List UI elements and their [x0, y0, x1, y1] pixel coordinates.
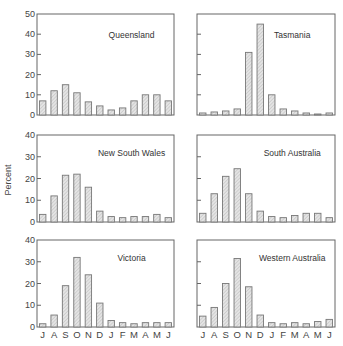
bar-queensland-9	[142, 95, 148, 115]
bar-victoria-0	[40, 324, 46, 327]
bar-new-south-wales-6	[108, 217, 114, 222]
bar-tasmania-7	[280, 109, 286, 115]
bar-new-south-wales-1	[51, 196, 57, 222]
bar-western-australia-0	[200, 316, 206, 327]
bar-tasmania-5	[257, 24, 263, 115]
bar-new-south-wales-7	[119, 218, 125, 222]
bar-tasmania-6	[269, 95, 275, 115]
bar-victoria-2	[62, 286, 68, 327]
bar-south-australia-9	[303, 213, 309, 222]
bar-south-australia-0	[200, 213, 206, 222]
bar-south-australia-11	[326, 218, 332, 222]
bar-south-australia-5	[257, 211, 263, 222]
y-tick-label: 30	[25, 257, 35, 267]
bar-queensland-4	[85, 102, 91, 115]
bar-tasmania-1	[211, 112, 217, 115]
bar-south-australia-6	[269, 217, 275, 222]
x-tick-label: J	[327, 329, 332, 340]
x-tick-label: A	[211, 329, 218, 340]
x-tick-label: S	[223, 329, 229, 340]
bar-south-australia-10	[315, 213, 321, 222]
bar-western-australia-9	[303, 324, 309, 327]
bar-western-australia-8	[292, 323, 298, 327]
y-tick-label: 40	[25, 130, 35, 140]
bar-victoria-7	[119, 323, 125, 327]
bar-western-australia-6	[269, 323, 275, 327]
bar-south-australia-3	[234, 169, 240, 222]
y-axis-label: Percent	[3, 164, 13, 196]
panel-title: Western Australia	[259, 253, 326, 263]
panel-frame	[197, 14, 335, 115]
bar-south-australia-7	[280, 218, 286, 222]
bar-new-south-wales-8	[131, 217, 137, 222]
bar-queensland-10	[154, 95, 160, 115]
bar-victoria-5	[97, 303, 103, 327]
panel-title: South Australia	[264, 148, 321, 158]
bar-victoria-3	[74, 257, 80, 327]
x-tick-label: M	[314, 329, 322, 340]
bar-south-australia-4	[246, 194, 252, 222]
x-tick-label: M	[130, 329, 138, 340]
y-tick-label: 30	[25, 152, 35, 162]
bar-queensland-5	[97, 106, 103, 115]
y-tick-label: 40	[25, 29, 35, 39]
bar-western-australia-11	[326, 319, 332, 327]
bar-tasmania-4	[246, 52, 252, 115]
y-tick-label: 20	[25, 174, 35, 184]
bar-new-south-wales-11	[165, 218, 171, 222]
panel-queensland: 01020304050Queensland	[25, 9, 174, 120]
bar-victoria-1	[51, 315, 57, 327]
x-tick-label: N	[85, 329, 92, 340]
panel-title: New South Wales	[98, 148, 165, 158]
bar-tasmania-3	[234, 109, 240, 115]
bar-queensland-2	[62, 85, 68, 115]
bar-queensland-6	[108, 110, 114, 115]
bar-western-australia-2	[223, 284, 229, 328]
bar-new-south-wales-9	[142, 217, 148, 222]
x-tick-label: O	[234, 329, 241, 340]
x-tick-label: N	[245, 329, 252, 340]
bar-tasmania-11	[326, 113, 332, 115]
panel-victoria: 010203040VictoriaJASONDJFMAMJ	[25, 235, 174, 340]
panel-western-australia: Western AustraliaJASONDJFMAMJ	[197, 240, 335, 340]
bar-queensland-1	[51, 91, 57, 115]
x-tick-label: F	[280, 329, 286, 340]
bar-queensland-8	[131, 101, 137, 115]
panel-new-south-wales: 010203040New South Wales	[25, 130, 174, 227]
y-tick-label: 20	[25, 279, 35, 289]
bar-western-australia-7	[280, 324, 286, 327]
x-tick-label: J	[200, 329, 205, 340]
y-tick-label: 50	[25, 9, 35, 19]
bar-tasmania-9	[303, 113, 309, 115]
y-tick-label: 0	[30, 110, 35, 120]
y-tick-label: 0	[30, 217, 35, 227]
x-tick-label: J	[269, 329, 274, 340]
bar-western-australia-5	[257, 315, 263, 327]
y-tick-label: 40	[25, 235, 35, 245]
y-tick-label: 30	[25, 49, 35, 59]
bar-new-south-wales-5	[97, 211, 103, 222]
y-tick-label: 10	[25, 90, 35, 100]
x-tick-label: M	[153, 329, 161, 340]
bar-tasmania-2	[223, 111, 229, 115]
panel-tasmania: Tasmania	[197, 14, 335, 115]
bar-south-australia-2	[223, 176, 229, 222]
bar-queensland-3	[74, 93, 80, 115]
y-tick-label: 10	[25, 195, 35, 205]
bar-new-south-wales-4	[85, 187, 91, 222]
bar-victoria-11	[165, 323, 171, 327]
x-tick-label: O	[73, 329, 80, 340]
bar-south-australia-1	[211, 194, 217, 222]
x-tick-label: S	[62, 329, 68, 340]
bar-new-south-wales-0	[40, 214, 46, 222]
bar-queensland-0	[40, 101, 46, 115]
panel-title: Victoria	[117, 253, 145, 263]
bar-victoria-6	[108, 320, 114, 327]
bar-tasmania-0	[200, 113, 206, 115]
bar-new-south-wales-3	[74, 174, 80, 222]
panels-container: 01020304050QueenslandTasmania010203040Ne…	[25, 9, 335, 340]
x-tick-label: M	[291, 329, 299, 340]
x-tick-label: A	[142, 329, 149, 340]
bar-tasmania-10	[315, 114, 321, 115]
x-tick-label: F	[120, 329, 126, 340]
